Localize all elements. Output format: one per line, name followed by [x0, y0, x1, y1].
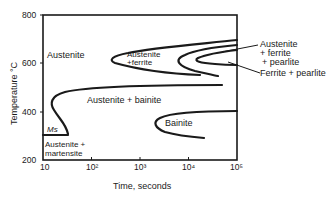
pearlite-start-curve [178, 45, 237, 76]
x-tick-label-10: 10 [40, 162, 50, 172]
y-axis-label: Temperature °C [9, 61, 19, 125]
x-tick-label-1e3: 10³ [134, 162, 146, 172]
region-austenite: Austenite [47, 50, 85, 60]
x-tick-label-1e2: 10² [86, 162, 98, 172]
y-tick-label-800: 800 [22, 10, 36, 20]
callout-fp: Ferrite + pearlite [260, 68, 326, 78]
bainite-start-curve [52, 85, 222, 134]
region-austenite-martensite-line2: martensite [45, 149, 83, 158]
region-austenite-bainite: Austenite + bainite [87, 95, 161, 105]
plot-frame [43, 15, 237, 160]
y-tick-label-600: 600 [22, 58, 36, 68]
y-tick-label-200: 200 [22, 155, 36, 165]
y-tick-label-400: 400 [22, 107, 36, 117]
region-austenite-martensite-line1: Austenite + [45, 140, 86, 149]
x-axis-label: Time, seconds [113, 181, 172, 191]
x-tick-label-1e4: 10⁴ [182, 162, 195, 172]
region-austenite-ferrite-line2: +ferrite [127, 58, 153, 67]
region-bainite: Bainite [165, 118, 193, 128]
ms-label: Ms [47, 125, 58, 134]
ttt-diagram: 800 600 400 200 Temperature °C 10 10² 10… [0, 0, 335, 201]
x-tick-label-1e5: 10⁵ [230, 162, 243, 172]
callout-leader-fp [228, 62, 260, 73]
callout-afp-line3: + pearlite [262, 57, 299, 67]
